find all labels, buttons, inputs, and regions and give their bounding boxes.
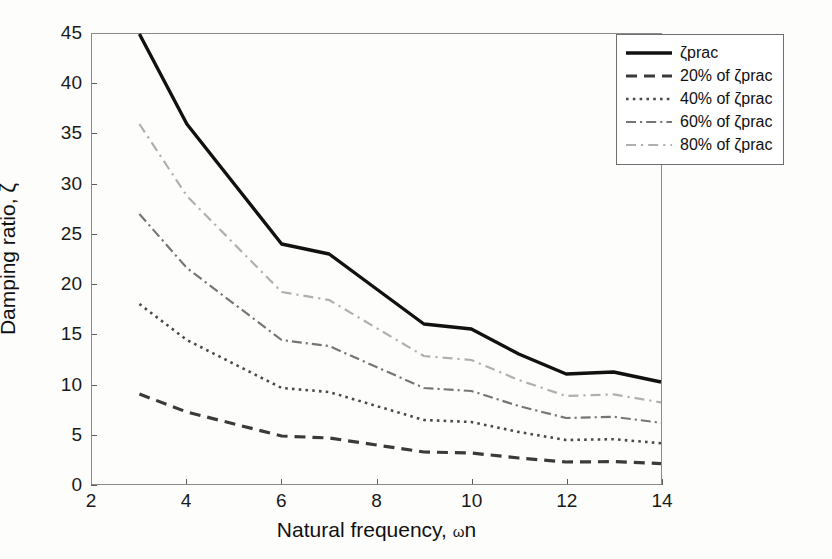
y-tick-mark — [91, 485, 97, 486]
y-tick-label: 10 — [40, 374, 82, 396]
omega-symbol: ω — [453, 523, 465, 540]
y-tick-label: 30 — [40, 173, 82, 195]
legend-item-zprac: ζprac — [625, 41, 775, 64]
legend-label-4: 80% of ζprac — [680, 136, 772, 154]
y-tick-label: 0 — [40, 474, 82, 496]
legend-line-sample-3 — [625, 115, 673, 129]
y-tick-label: 25 — [40, 223, 82, 245]
legend-label-2: 40% of ζprac — [680, 90, 772, 108]
x-tick-label: 6 — [276, 490, 287, 512]
plot-area — [91, 33, 662, 485]
x-tick-mark — [662, 479, 663, 485]
x-axis-title-text: Natural frequency, — [277, 518, 453, 541]
x-tick-label: 2 — [86, 490, 97, 512]
y-axis-title-wrap: Damping ratio, ζ — [14, 33, 15, 485]
series-line-1 — [139, 394, 661, 464]
legend-label-3: 60% of ζprac — [680, 113, 772, 131]
x-tick-label: 8 — [371, 490, 382, 512]
legend-item-60-percent: 60% of ζprac — [625, 110, 775, 133]
legend-line-sample-4 — [625, 138, 673, 152]
x-tick-label: 4 — [181, 490, 192, 512]
x-axis-title: Natural frequency, ωn — [91, 518, 662, 542]
legend-label-0: ζprac — [680, 44, 718, 62]
series-line-0 — [139, 34, 661, 382]
y-tick-label: 5 — [40, 424, 82, 446]
legend-line-sample-1 — [625, 69, 673, 83]
data-curves — [92, 34, 661, 484]
y-tick-label: 45 — [40, 22, 82, 44]
x-tick-label: 12 — [556, 490, 577, 512]
y-axis-title: Damping ratio, ζ — [0, 183, 21, 335]
legend-line-sample-0 — [625, 46, 673, 60]
x-tick-label: 14 — [651, 490, 672, 512]
chart-figure: Damping ratio, ζ 051015202530354045 2468… — [0, 0, 832, 559]
series-line-3 — [139, 214, 661, 423]
y-tick-label: 20 — [40, 273, 82, 295]
x-axis-title-subscript: n — [464, 518, 476, 541]
x-tick-label: 10 — [461, 490, 482, 512]
legend-item-20-percent: 20% of ζprac — [625, 64, 775, 87]
legend-label-1: 20% of ζprac — [680, 67, 772, 85]
zeta-symbol-y: ζ — [0, 183, 20, 193]
legend-line-sample-2 — [625, 92, 673, 106]
y-tick-label: 35 — [40, 122, 82, 144]
legend: ζprac 20% of ζprac 40% of ζprac 60% of ζ… — [616, 34, 784, 165]
y-tick-label: 15 — [40, 323, 82, 345]
legend-item-40-percent: 40% of ζprac — [625, 87, 775, 110]
y-axis-title-text: Damping ratio, — [0, 193, 19, 335]
y-tick-label: 40 — [40, 72, 82, 94]
series-line-4 — [139, 124, 661, 402]
legend-item-80-percent: 80% of ζprac — [625, 133, 775, 156]
